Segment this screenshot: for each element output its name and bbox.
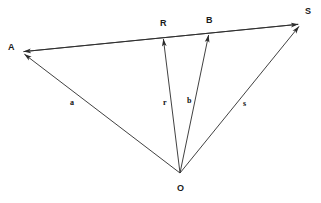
vector-diagram: A R B S O a r b s	[0, 0, 321, 203]
vector-o-to-a	[24, 54, 180, 173]
point-label-o: O	[177, 184, 184, 193]
vector-o-to-b	[180, 35, 209, 173]
line-s-to-a	[24, 24, 299, 51]
point-label-b: B	[206, 16, 213, 25]
point-label-r: R	[160, 19, 167, 28]
point-label-s: S	[305, 7, 311, 16]
vector-label-s: s	[243, 100, 246, 108]
vector-o-to-s	[180, 26, 299, 173]
vector-label-a: a	[70, 99, 74, 107]
point-label-a: A	[8, 43, 15, 52]
vector-label-r: r	[163, 99, 167, 107]
diagram-canvas	[0, 0, 321, 203]
vector-label-b: b	[187, 97, 191, 105]
